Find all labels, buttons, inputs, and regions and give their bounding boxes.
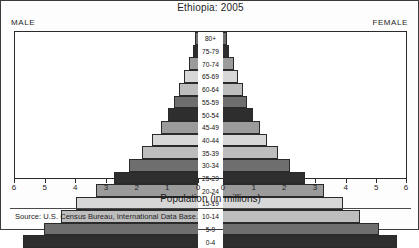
female-bar-cell	[223, 121, 406, 134]
x-tick-label: 6	[404, 183, 408, 192]
age-group-label: 10-14	[198, 213, 223, 220]
female-bar-cell	[223, 134, 406, 147]
male-bar	[189, 57, 198, 70]
female-bar-cell	[223, 45, 406, 58]
pyramid-row: 70-74	[15, 57, 406, 70]
female-bar-cell	[223, 70, 406, 83]
male-bar-cell	[15, 70, 198, 83]
x-tick-label: 5	[42, 183, 46, 192]
female-bar	[223, 210, 360, 223]
age-group-label: 35-39	[198, 149, 223, 156]
age-group-label: 65-69	[198, 73, 223, 80]
male-bar-cell	[15, 121, 198, 134]
pyramid-row: 65-69	[15, 70, 406, 83]
male-bar	[142, 146, 198, 159]
female-bar-cell	[223, 146, 406, 159]
pyramid-row: 75-79	[15, 45, 406, 58]
age-group-label: 40-44	[198, 136, 223, 143]
male-bar	[161, 121, 198, 134]
x-tick-label: 4	[343, 183, 347, 192]
x-tick-label: 1	[165, 183, 169, 192]
pyramid-row: 60-64	[15, 83, 406, 96]
x-tick-label: 4	[73, 183, 77, 192]
female-bar-cell	[223, 57, 406, 70]
x-tick-label: 0	[221, 183, 225, 192]
male-bar	[23, 235, 198, 248]
pyramid-rows: 80+75-7970-7465-6960-6455-5950-5445-4940…	[15, 32, 406, 178]
male-bar	[184, 70, 198, 83]
male-bar-cell	[15, 159, 198, 172]
female-bar-cell	[223, 210, 406, 223]
male-bar	[129, 159, 198, 172]
x-tick-label: 2	[282, 183, 286, 192]
x-tick-label: 1	[251, 183, 255, 192]
age-group-cell: 70-74	[198, 57, 223, 70]
age-group-label: 45-49	[198, 124, 223, 131]
male-side-label: MALE	[11, 18, 35, 27]
age-group-label: 75-79	[198, 48, 223, 55]
female-bar-cell	[223, 108, 406, 121]
female-bar-cell	[223, 159, 406, 172]
pyramid-row: 40-44	[15, 134, 406, 147]
female-bar-cell	[223, 83, 406, 96]
age-group-cell: 35-39	[198, 146, 223, 159]
male-bar	[152, 134, 198, 147]
chart-title: Ethiopia: 2005	[1, 2, 419, 13]
female-side-label: FEMALE	[372, 18, 408, 27]
x-tick-label: 6	[12, 183, 16, 192]
male-bar	[179, 83, 198, 96]
pyramid-row: 45-49	[15, 121, 406, 134]
age-group-label: 30-34	[198, 162, 223, 169]
female-bar-cell	[223, 32, 406, 45]
age-group-cell: 75-79	[198, 45, 223, 58]
pyramid-row: 0-4	[15, 235, 406, 248]
male-bar-cell	[15, 235, 198, 248]
male-bar-cell	[15, 83, 198, 96]
x-tick-label: 3	[104, 183, 108, 192]
age-group-cell: 5-9	[198, 223, 223, 236]
age-group-label: 80+	[198, 35, 223, 42]
x-tick-label: 2	[134, 183, 138, 192]
female-bar	[223, 45, 229, 58]
female-bar-cell	[223, 235, 406, 248]
female-bar	[223, 108, 254, 121]
male-bar	[168, 108, 199, 121]
male-bar-cell	[15, 108, 198, 121]
age-group-cell: 30-34	[198, 159, 223, 172]
age-group-label: 0-4	[198, 238, 223, 245]
pyramid-row: 30-34	[15, 159, 406, 172]
female-bar	[223, 146, 278, 159]
female-bar	[223, 235, 397, 248]
male-bar-cell	[15, 45, 198, 58]
male-bar	[44, 223, 198, 236]
male-bar-cell	[15, 146, 198, 159]
age-group-cell: 40-44	[198, 134, 223, 147]
age-group-cell: 60-64	[198, 83, 223, 96]
x-tick-label: 5	[374, 183, 378, 192]
female-bar	[223, 223, 379, 236]
male-bar-cell	[15, 96, 198, 109]
pyramid-row: 55-59	[15, 96, 406, 109]
female-bar	[223, 32, 227, 45]
source-note: Source: U.S. Census Bureau, Internationa…	[15, 212, 198, 221]
x-tick-label: 0	[196, 183, 200, 192]
age-group-label: 70-74	[198, 60, 223, 67]
pyramid-row: 50-54	[15, 108, 406, 121]
age-group-label: 5-9	[198, 225, 223, 232]
female-bar	[223, 121, 260, 134]
female-bar-cell	[223, 223, 406, 236]
female-bar-cell	[223, 96, 406, 109]
age-group-cell: 10-14	[198, 210, 223, 223]
pyramid-row: 80+	[15, 32, 406, 45]
age-group-cell: 0-4	[198, 235, 223, 248]
female-bar	[223, 134, 267, 147]
age-group-label: 50-54	[198, 111, 223, 118]
male-bar-cell	[15, 32, 198, 45]
female-bar	[223, 96, 247, 109]
age-group-cell: 45-49	[198, 121, 223, 134]
female-bar	[223, 70, 238, 83]
female-bar	[223, 83, 243, 96]
age-group-label: 60-64	[198, 86, 223, 93]
male-bar	[174, 96, 198, 109]
